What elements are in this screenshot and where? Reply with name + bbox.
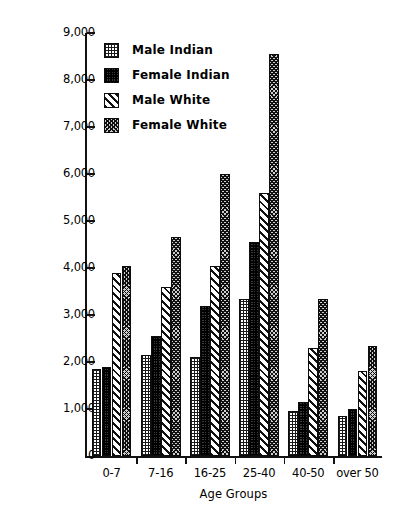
bar-chart: 01,0002,0003,0004,0005,0006,0007,0008,00… <box>0 0 412 511</box>
bar <box>358 371 368 456</box>
bar <box>112 273 122 456</box>
x-axis-title: Age Groups <box>85 487 382 501</box>
bar <box>122 266 132 456</box>
legend-swatch-icon <box>104 93 119 108</box>
legend-item: Male White <box>104 89 230 111</box>
bar <box>200 306 210 456</box>
legend-label: Female Indian <box>132 68 230 82</box>
x-tick-mark <box>235 457 237 464</box>
x-tick-label-16-25: 16-25 <box>194 466 226 480</box>
legend-label: Male White <box>132 93 210 107</box>
x-tick-mark <box>284 457 286 464</box>
bar-group <box>284 33 333 456</box>
bar <box>220 174 230 456</box>
x-tick-label-40-50: 40-50 <box>292 466 324 480</box>
legend-label: Male Indian <box>132 43 213 57</box>
bar <box>338 416 348 456</box>
legend-item: Female White <box>104 114 230 136</box>
x-tick-label-7-16: 7-16 <box>148 466 173 480</box>
legend-swatch-icon <box>104 118 119 133</box>
bar <box>239 299 249 456</box>
bar <box>151 336 161 456</box>
bar <box>141 355 151 456</box>
bar <box>92 369 102 456</box>
bar <box>288 411 298 456</box>
bar <box>171 237 181 456</box>
bar <box>318 299 328 456</box>
legend-swatch-icon <box>104 43 119 58</box>
x-tick-mark <box>185 457 187 464</box>
bar <box>249 242 259 456</box>
legend-label: Female White <box>132 118 227 132</box>
bar <box>161 287 171 456</box>
x-tick-label-25-40: 25-40 <box>243 466 275 480</box>
bar-group <box>333 33 382 456</box>
bar <box>348 409 358 456</box>
bar <box>269 54 279 456</box>
x-tick-mark <box>136 457 138 464</box>
bar <box>368 346 378 456</box>
bar <box>308 348 318 456</box>
chart-legend: Male IndianFemale IndianMale WhiteFemale… <box>104 39 230 139</box>
bar <box>298 402 308 456</box>
bar <box>102 367 112 456</box>
bar <box>259 193 269 456</box>
legend-item: Male Indian <box>104 39 230 61</box>
bar-group <box>235 33 284 456</box>
x-tick-mark <box>333 457 335 464</box>
bar <box>210 266 220 456</box>
x-tick-label-0-7: 0-7 <box>102 466 120 480</box>
x-tick-label-over-50: over 50 <box>336 466 379 480</box>
legend-swatch-icon <box>104 68 119 83</box>
bar <box>190 357 200 456</box>
legend-item: Female Indian <box>104 64 230 86</box>
